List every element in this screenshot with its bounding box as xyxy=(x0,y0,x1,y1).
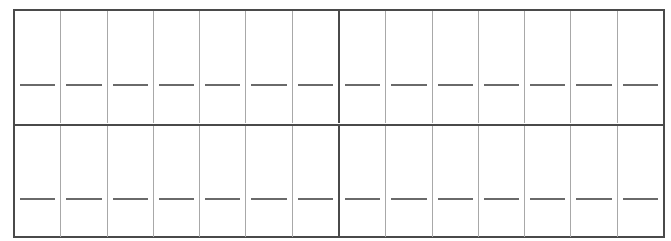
answer-cell[interactable] xyxy=(153,11,199,123)
answer-blank-line[interactable] xyxy=(438,198,473,200)
answer-cell[interactable] xyxy=(617,126,663,237)
grid-row-2 xyxy=(15,124,663,237)
answer-blank-line[interactable] xyxy=(20,198,55,200)
answer-blank-line[interactable] xyxy=(484,84,519,86)
answer-cell[interactable] xyxy=(432,11,478,123)
answer-cell[interactable] xyxy=(15,126,60,237)
answer-cell[interactable] xyxy=(570,126,616,237)
answer-blank-line[interactable] xyxy=(530,84,565,86)
answer-blank-line[interactable] xyxy=(576,198,611,200)
answer-blank-line[interactable] xyxy=(623,198,658,200)
cell-group-2-right xyxy=(339,126,663,237)
answer-blank-line[interactable] xyxy=(298,198,333,200)
answer-blank-line[interactable] xyxy=(66,198,101,200)
answer-blank-line[interactable] xyxy=(484,198,519,200)
answer-blank-line[interactable] xyxy=(623,84,658,86)
answer-cell[interactable] xyxy=(153,126,199,237)
answer-blank-line[interactable] xyxy=(113,84,148,86)
answer-blank-line[interactable] xyxy=(205,198,240,200)
answer-blank-line[interactable] xyxy=(530,198,565,200)
answer-blank-line[interactable] xyxy=(159,84,194,86)
cell-group-2-left xyxy=(15,126,339,237)
answer-cell[interactable] xyxy=(570,11,616,123)
answer-blank-line[interactable] xyxy=(576,84,611,86)
answer-blank-line[interactable] xyxy=(251,198,286,200)
answer-cell[interactable] xyxy=(60,11,106,123)
answer-blank-line[interactable] xyxy=(438,84,473,86)
answer-blank-line[interactable] xyxy=(345,84,380,86)
answer-cell[interactable] xyxy=(617,11,663,123)
answer-grid xyxy=(13,9,665,238)
answer-cell[interactable] xyxy=(107,11,153,123)
answer-cell[interactable] xyxy=(15,11,60,123)
answer-cell[interactable] xyxy=(245,11,291,123)
answer-cell[interactable] xyxy=(199,11,245,123)
answer-blank-line[interactable] xyxy=(113,198,148,200)
answer-cell[interactable] xyxy=(340,126,385,237)
answer-cell[interactable] xyxy=(524,126,570,237)
answer-cell[interactable] xyxy=(340,11,385,123)
answer-cell[interactable] xyxy=(292,126,338,237)
answer-cell[interactable] xyxy=(292,11,338,123)
answer-blank-line[interactable] xyxy=(391,84,426,86)
answer-blank-line[interactable] xyxy=(20,84,55,86)
answer-cell[interactable] xyxy=(524,11,570,123)
answer-cell[interactable] xyxy=(385,126,431,237)
grid-row-1 xyxy=(15,11,663,123)
answer-cell[interactable] xyxy=(385,11,431,123)
answer-cell[interactable] xyxy=(107,126,153,237)
answer-blank-line[interactable] xyxy=(66,84,101,86)
answer-cell[interactable] xyxy=(199,126,245,237)
answer-cell[interactable] xyxy=(60,126,106,237)
cell-group-1-left xyxy=(15,11,339,123)
answer-blank-line[interactable] xyxy=(159,198,194,200)
answer-blank-line[interactable] xyxy=(205,84,240,86)
answer-cell[interactable] xyxy=(478,126,524,237)
answer-blank-line[interactable] xyxy=(251,84,286,86)
answer-cell[interactable] xyxy=(478,11,524,123)
answer-blank-line[interactable] xyxy=(391,198,426,200)
answer-blank-line[interactable] xyxy=(298,84,333,86)
worksheet-page xyxy=(0,0,671,241)
answer-cell[interactable] xyxy=(432,126,478,237)
answer-blank-line[interactable] xyxy=(345,198,380,200)
cell-group-1-right xyxy=(339,11,663,123)
answer-cell[interactable] xyxy=(245,126,291,237)
